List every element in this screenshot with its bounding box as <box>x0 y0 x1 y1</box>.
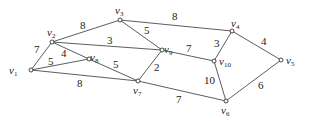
edge-weight-v2-v3: 8 <box>80 19 86 31</box>
edge-weight-v1-v2: 7 <box>34 43 40 55</box>
vertex-label-v6: v6 <box>221 104 230 118</box>
vertex-v4 <box>230 29 234 33</box>
edge-weight-v4-v10: 3 <box>214 37 220 49</box>
edge-weight-v10-v6: 10 <box>204 74 216 86</box>
edge-v1-v8 <box>31 59 89 70</box>
edge-weight-v7-v6: 7 <box>176 93 182 105</box>
vertex-label-v4: v4 <box>231 17 240 31</box>
vertex-v1 <box>29 68 33 72</box>
edge-v3-v9 <box>120 20 162 50</box>
edge-weight-v4-v5: 4 <box>261 35 267 47</box>
vertex-label-v9: v9 <box>164 43 173 57</box>
vertex-v6 <box>224 99 228 103</box>
weighted-graph-diagram: 75848355827734106 v1v2v3v4v5v6v7v8v9v10 <box>0 0 310 121</box>
vertex-label-v1: v1 <box>9 64 18 78</box>
edge-v1-v7 <box>31 70 138 81</box>
vertex-label-v8: v8 <box>90 51 99 65</box>
edge-v4-v5 <box>232 31 281 60</box>
edge-weight-v9-v7: 2 <box>154 61 160 73</box>
vertex-label-v5: v5 <box>286 54 295 68</box>
vertex-v3 <box>118 18 122 22</box>
vertex-label-v7: v7 <box>133 84 142 98</box>
edge-weight-v3-v4: 8 <box>172 10 178 22</box>
edge-v5-v6 <box>226 60 281 101</box>
edge-weight-v2-v8: 4 <box>61 47 67 59</box>
edge-weight-v5-v6: 6 <box>258 79 264 91</box>
edge-weight-v1-v7: 8 <box>77 77 83 89</box>
vertex-v7 <box>136 79 140 83</box>
edge-weight-v1-v8: 5 <box>48 55 54 67</box>
vertex-label-v3: v3 <box>115 4 124 18</box>
vertex-v10 <box>212 59 216 63</box>
vertex-label-v10: v10 <box>219 55 231 69</box>
edge-weight-v8-v7: 5 <box>113 58 119 70</box>
edge-weight-v3-v9: 5 <box>144 24 150 36</box>
vertex-v5 <box>279 58 283 62</box>
edge-weight-v2-v9: 3 <box>107 34 113 46</box>
vertex-label-v2: v2 <box>47 26 56 40</box>
vertex-v2 <box>50 40 54 44</box>
edge-weight-v9-v10: 7 <box>186 42 192 54</box>
